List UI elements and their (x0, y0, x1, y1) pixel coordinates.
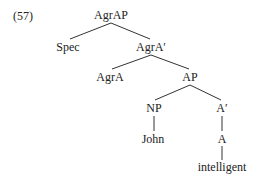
node-a: A (218, 133, 227, 145)
node-intelligent: intelligent (198, 161, 247, 173)
edge-agra-bar-ap (151, 55, 189, 69)
tree-edges (0, 0, 261, 184)
node-a-bar: A′ (216, 102, 227, 114)
edge-ap-np (155, 85, 190, 100)
node-np: NP (146, 102, 161, 114)
edge-agrap-spec (70, 23, 111, 39)
edge-ap-a-bar (190, 85, 221, 100)
node-john: John (142, 133, 165, 145)
edge-agra-bar-agra (112, 55, 151, 69)
node-spec: Spec (56, 41, 79, 53)
node-ap: AP (182, 71, 197, 83)
edge-agrap-agra-bar (111, 23, 150, 39)
node-agra: AgrA (96, 71, 123, 83)
node-agra-bar: AgrA′ (136, 41, 166, 53)
node-agrap: AgrAP (94, 9, 128, 21)
